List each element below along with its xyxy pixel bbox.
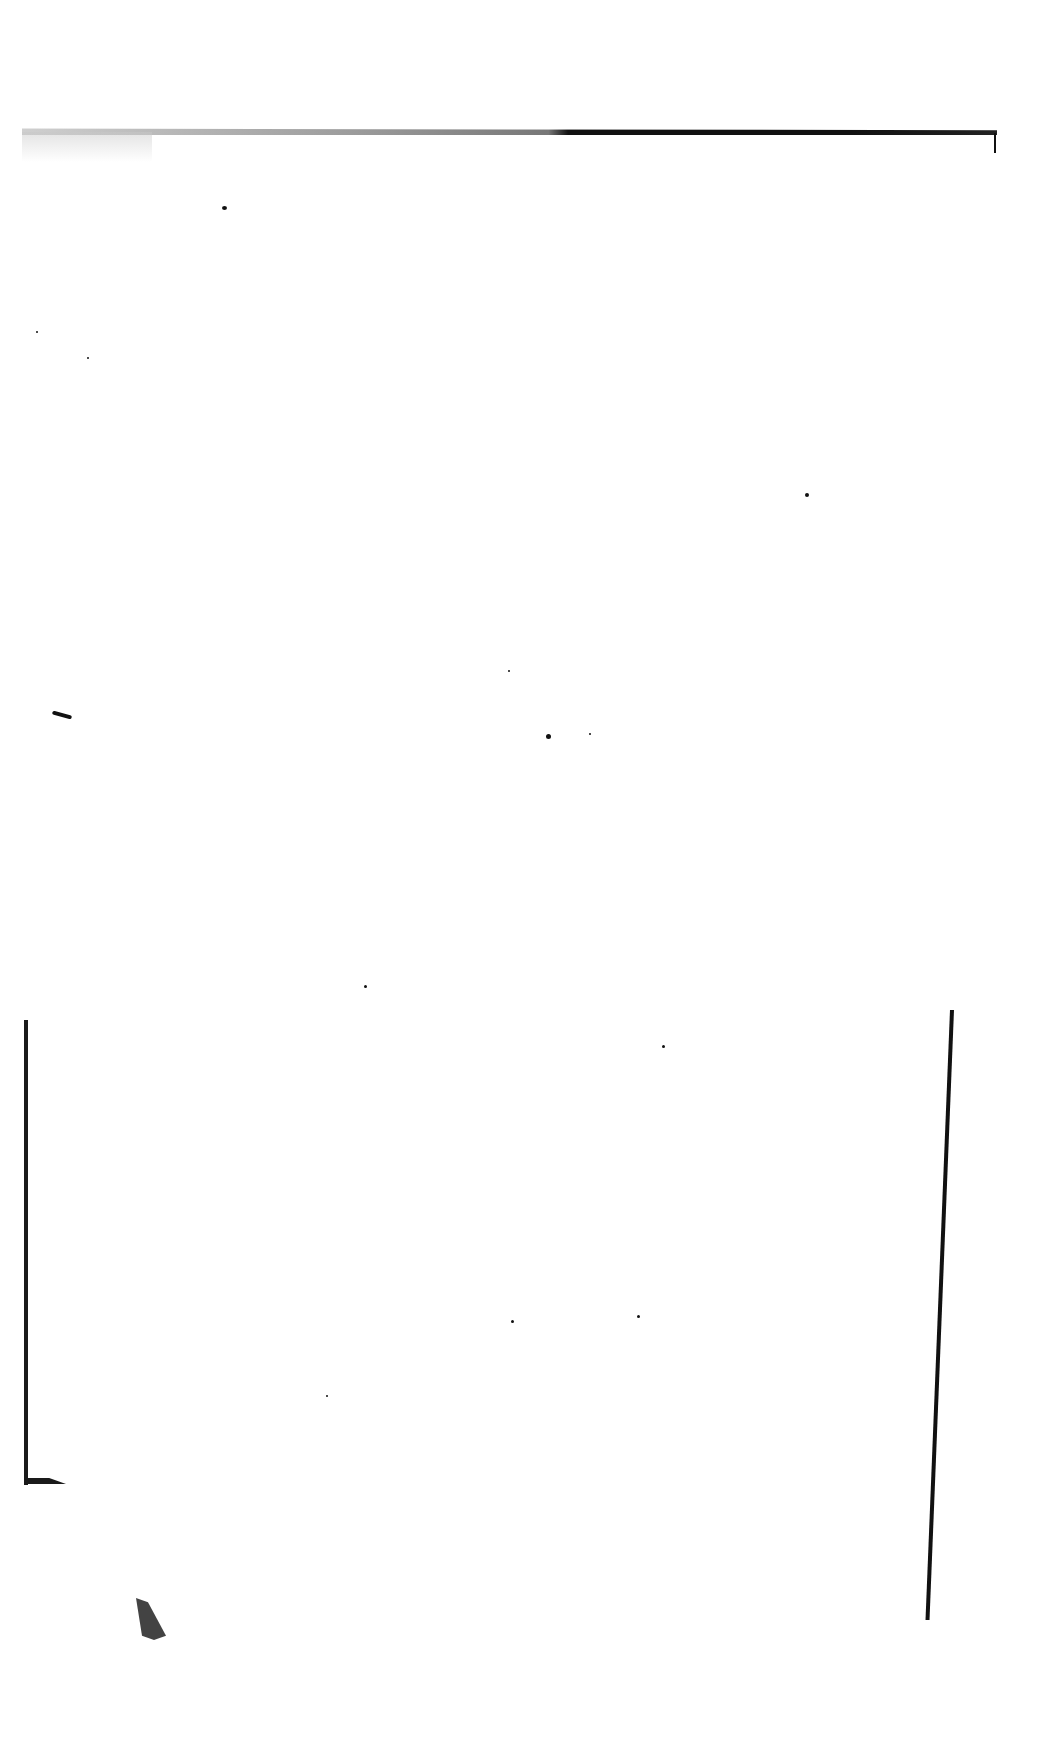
speck	[52, 710, 72, 719]
speck	[222, 206, 227, 210]
speck	[589, 733, 591, 735]
right-page-edge-shadow	[925, 1010, 954, 1620]
bottom-left-smudge	[136, 1598, 166, 1640]
speck	[364, 985, 367, 988]
speck	[662, 1045, 665, 1048]
speck	[637, 1315, 640, 1318]
top-page-edge-shadow	[22, 127, 997, 135]
speck	[805, 493, 809, 497]
speck	[36, 331, 38, 333]
speck	[546, 734, 551, 739]
speck	[508, 670, 510, 672]
top-left-scan-shade	[22, 132, 152, 162]
speck	[87, 357, 89, 359]
speck	[326, 1395, 328, 1397]
scanned-page	[0, 0, 1061, 1755]
speck	[511, 1320, 514, 1323]
left-page-corner-shadow	[24, 1478, 66, 1484]
right-top-edge-mark	[994, 133, 996, 153]
left-page-edge-shadow	[24, 1020, 28, 1485]
